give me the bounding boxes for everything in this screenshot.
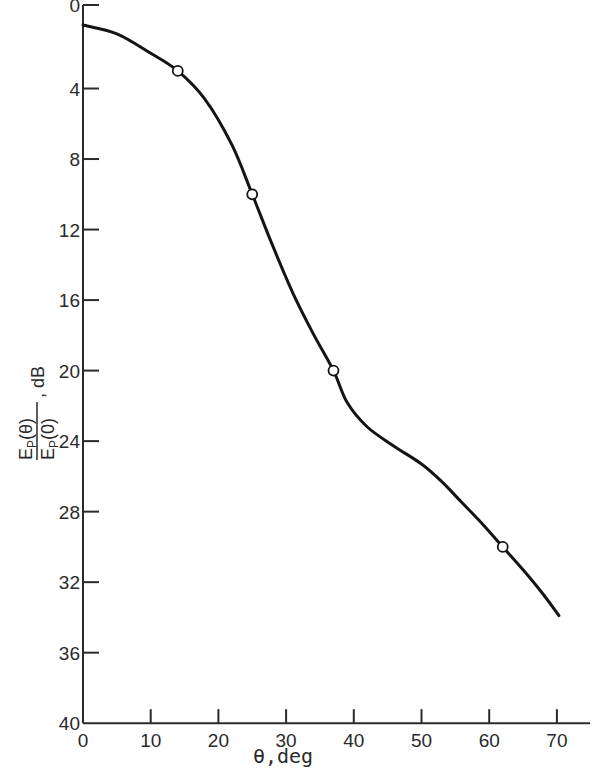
- y-tick-label: 28: [59, 502, 80, 523]
- x-axis-title: θ,deg: [253, 744, 313, 768]
- y-title-unit: , dB: [28, 366, 48, 398]
- x-tick-label: 10: [140, 730, 161, 751]
- y-tick-label: 4: [69, 79, 80, 100]
- y-tick-label: 16: [59, 290, 80, 311]
- line-chart: 0481216202428323640 010203040506070 θ,de…: [0, 0, 595, 779]
- x-tick-label: 70: [546, 730, 567, 751]
- fitted-curve: [83, 25, 559, 616]
- y-title-numerator: E: [16, 448, 36, 460]
- data-point: [328, 366, 338, 376]
- y-tick-label: 20: [59, 361, 80, 382]
- y-tick-label: 36: [59, 643, 80, 664]
- x-axis-ticks: 010203040506070: [78, 709, 568, 751]
- y-tick-label: 24: [59, 431, 81, 452]
- svg-text:EP(0): EP(0): [38, 418, 61, 460]
- y-title-denominator: E: [38, 448, 58, 460]
- data-point: [498, 542, 508, 552]
- x-tick-label: 60: [479, 730, 500, 751]
- data-point: [173, 66, 183, 76]
- svg-text:EP(θ): EP(θ): [16, 418, 39, 460]
- data-point-markers: [173, 66, 508, 552]
- x-tick-label: 20: [208, 730, 229, 751]
- axes: [83, 5, 590, 723]
- y-tick-label: 32: [59, 572, 80, 593]
- y-axis-ticks: 0481216202428323640: [59, 0, 99, 734]
- y-axis-title: EP(θ) EP(0) , dB: [16, 366, 61, 460]
- data-point: [247, 189, 257, 199]
- x-tick-label: 50: [411, 730, 432, 751]
- y-tick-label: 12: [59, 220, 80, 241]
- x-tick-label: 0: [78, 730, 89, 751]
- y-tick-label: 8: [69, 149, 80, 170]
- y-tick-label: 0: [69, 0, 80, 16]
- x-tick-label: 40: [343, 730, 364, 751]
